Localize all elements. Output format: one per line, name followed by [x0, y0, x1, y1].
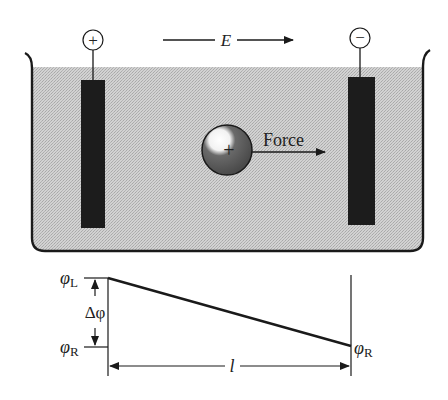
- field-label: E: [220, 31, 232, 50]
- potential-drop-line: [108, 278, 351, 346]
- field-arrow: E: [163, 31, 293, 50]
- phi-right-label: φR: [354, 338, 373, 360]
- left-electrode: +: [81, 30, 105, 228]
- electrophoresis-diagram: E + − + Force Δφ: [0, 0, 448, 400]
- force-label: Force: [263, 130, 304, 150]
- length-label: l: [229, 356, 234, 376]
- particle-charge-symbol: +: [223, 139, 234, 161]
- positive-electrode-plate: [81, 80, 105, 228]
- phi-left-label: φL: [60, 268, 78, 290]
- phi-right-left-label: φR: [60, 337, 79, 359]
- negative-electrode-plate: [348, 77, 375, 225]
- right-electrode: −: [348, 28, 375, 225]
- positive-terminal-symbol: +: [88, 31, 98, 50]
- negative-terminal-symbol: −: [355, 28, 365, 47]
- potential-plot: Δφ φL φR φR l: [60, 268, 373, 376]
- delta-phi-label: Δφ: [85, 303, 106, 322]
